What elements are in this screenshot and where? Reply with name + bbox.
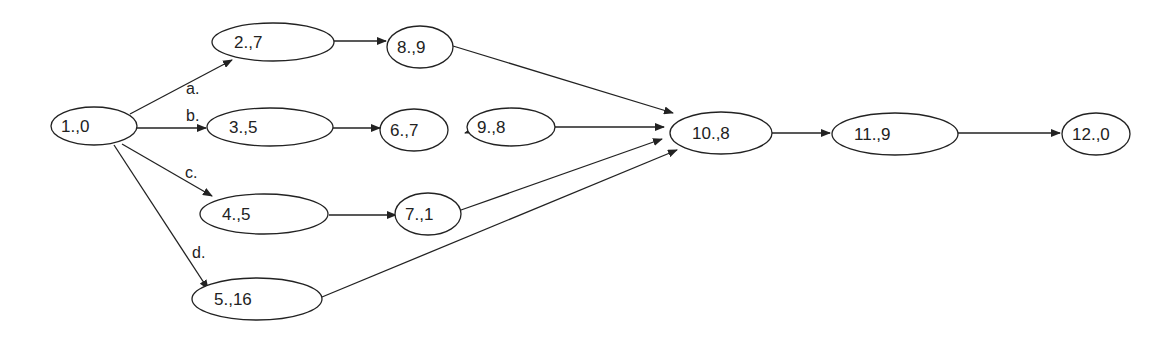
node-ellipse (207, 108, 333, 146)
node-label: 9.,8 (477, 118, 505, 137)
node-n8: 8.,9 (387, 26, 453, 68)
edge-label: d. (192, 244, 205, 261)
node-ellipse (212, 23, 334, 61)
edge-label: a. (186, 80, 199, 97)
node-label: 10.,8 (692, 124, 730, 143)
node-n1: 1.,0 (51, 107, 137, 145)
edge-n9-n6 (465, 132, 468, 133)
node-ellipse (192, 278, 322, 320)
edge-n7-n10 (461, 139, 662, 210)
node-label: 11.,9 (854, 125, 891, 144)
node-n11: 11.,9 (832, 113, 958, 155)
node-n4: 4.,5 (200, 194, 328, 234)
edge-n1-n4 (122, 144, 212, 196)
edge-n5-n10 (322, 150, 677, 297)
node-label: 1.,0 (61, 117, 89, 136)
node-n12: 12.,0 (1062, 113, 1130, 155)
node-n9: 9.,8 (467, 108, 555, 146)
node-label: 8.,9 (397, 38, 425, 57)
node-label: 3.,5 (229, 118, 257, 137)
node-n3: 3.,5 (207, 108, 333, 146)
edge-labels: a.b.c.d. (185, 80, 205, 261)
node-n5: 5.,16 (192, 278, 322, 320)
node-label: 4.,5 (222, 205, 250, 224)
node-n6: 6.,7 (380, 109, 448, 151)
edge-n8-n10 (453, 46, 673, 113)
node-ellipse (200, 194, 328, 234)
node-n2: 2.,7 (212, 23, 334, 61)
nodes: 1.,02.,73.,54.,55.,168.,96.,79.,87.,110.… (51, 23, 1130, 320)
node-label: 6.,7 (390, 121, 418, 140)
node-ellipse (832, 113, 958, 155)
node-n7: 7.,1 (395, 193, 461, 235)
node-label: 2.,7 (234, 33, 262, 52)
network-diagram: 1.,02.,73.,54.,55.,168.,96.,79.,87.,110.… (0, 0, 1163, 344)
edge-label: b. (186, 107, 199, 124)
node-n10: 10.,8 (670, 112, 772, 154)
edges (114, 41, 1060, 297)
node-label: 12.,0 (1072, 125, 1110, 144)
edge-label: c. (185, 164, 197, 181)
edge-n1-n2 (130, 60, 232, 114)
node-label: 5.,16 (214, 290, 252, 309)
node-label: 7.,1 (405, 205, 433, 224)
